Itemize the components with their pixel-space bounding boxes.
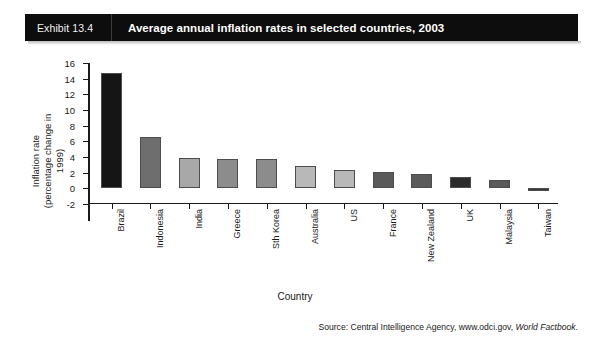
x-axis-tick bbox=[500, 204, 501, 209]
x-axis-tick-label: Greece bbox=[232, 209, 242, 239]
source-italic: World Factbook bbox=[515, 322, 575, 332]
x-axis-tick-label: Indonesia bbox=[155, 209, 165, 248]
bar bbox=[334, 170, 355, 188]
x-axis-tick bbox=[461, 204, 462, 209]
bar bbox=[140, 137, 161, 189]
y-axis-tick-label: 4 bbox=[70, 152, 75, 163]
x-axis-tick bbox=[383, 204, 384, 209]
y-axis-tick-label: 10 bbox=[64, 105, 75, 116]
y-axis-tick-label: -2 bbox=[67, 199, 75, 210]
bar bbox=[101, 73, 122, 188]
x-axis-tick-label: Taiwan bbox=[543, 209, 553, 237]
header-drop-shadow bbox=[28, 41, 581, 45]
y-axis-tick-label: 14 bbox=[64, 73, 75, 84]
y-axis-title: Inflation rate (percentage change in 199… bbox=[30, 101, 66, 221]
x-axis-tick-label: Brazil bbox=[116, 209, 126, 232]
bar bbox=[373, 172, 394, 188]
x-axis-tick bbox=[538, 204, 539, 209]
x-axis-tick bbox=[306, 204, 307, 209]
bar bbox=[179, 158, 200, 189]
x-axis-tick bbox=[422, 204, 423, 209]
y-axis-tick-label: 2 bbox=[70, 167, 75, 178]
x-axis-tick-label: Australia bbox=[310, 209, 320, 244]
y-axis-tick-label: 16 bbox=[64, 58, 75, 69]
x-axis-tick bbox=[267, 204, 268, 209]
bar bbox=[295, 166, 316, 188]
bar bbox=[217, 159, 238, 188]
x-axis-title: Country bbox=[0, 291, 590, 302]
y-axis-tick-label: 8 bbox=[70, 120, 75, 131]
source-suffix: . bbox=[576, 322, 578, 332]
x-axis-tick-label: Malaysia bbox=[504, 209, 514, 245]
y-axis-title-line1: Inflation rate bbox=[30, 101, 42, 221]
plot-region: 1614121086420-2 BrazilIndonesiaIndiaGree… bbox=[88, 63, 558, 204]
x-axis-tick-label: UK bbox=[465, 209, 475, 222]
exhibit-title: Average annual inflation rates in select… bbox=[112, 22, 444, 34]
x-axis-tick-label: India bbox=[194, 209, 204, 229]
x-axis-tick-label: New Zealand bbox=[426, 209, 436, 262]
source-prefix: Source: Central Intelligence Agency, www… bbox=[318, 322, 515, 332]
source-note: Source: Central Intelligence Agency, www… bbox=[318, 322, 578, 332]
bar bbox=[256, 159, 277, 188]
exhibit-figure: Exhibit 13.4 Average annual inflation ra… bbox=[0, 0, 590, 347]
exhibit-header-band: Exhibit 13.4 Average annual inflation ra… bbox=[25, 14, 578, 41]
x-axis-tick-label: France bbox=[388, 209, 398, 237]
y-axis-tick-label: 0 bbox=[70, 183, 75, 194]
exhibit-number: Exhibit 13.4 bbox=[25, 22, 111, 34]
x-axis-tick bbox=[344, 204, 345, 209]
y-axis-tick-label: 6 bbox=[70, 136, 75, 147]
y-axis-tick-label: 12 bbox=[64, 89, 75, 100]
x-axis-tick bbox=[112, 204, 113, 209]
x-axis-tick bbox=[189, 204, 190, 209]
x-axis-tick bbox=[228, 204, 229, 209]
chart-area: Inflation rate (percentage change in 199… bbox=[0, 55, 590, 305]
bar-series: BrazilIndonesiaIndiaGreeceSth KoreaAustr… bbox=[88, 63, 558, 221]
bar bbox=[528, 188, 549, 190]
bar bbox=[489, 180, 510, 189]
x-axis-tick-label: Sth Korea bbox=[271, 209, 281, 249]
x-axis-tick bbox=[150, 204, 151, 209]
x-axis-tick-label: US bbox=[349, 209, 359, 222]
y-axis-title-line2: (percentage change in 1999) bbox=[42, 101, 66, 221]
bar bbox=[450, 177, 471, 188]
bar bbox=[411, 174, 432, 188]
